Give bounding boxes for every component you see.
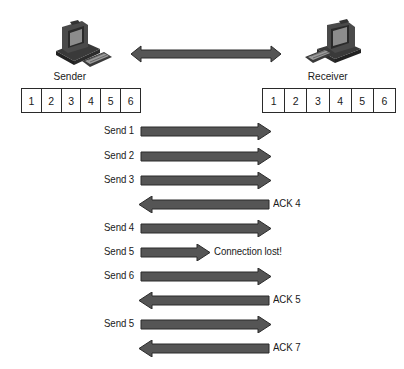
sender-label: Sender: [53, 70, 86, 82]
sender-buffer: 1 2 3 4 5 6: [21, 88, 141, 113]
exchange-label: Send 6: [104, 269, 134, 281]
sender-computer-icon: [52, 19, 114, 69]
exchange-label: Send 2: [104, 149, 134, 161]
left-arrow-icon: [138, 340, 270, 357]
right-arrow-icon: [140, 148, 272, 165]
connection-lost-note: Connection lost!: [214, 245, 282, 257]
sender-buffer-cell: 4: [81, 89, 101, 112]
exchange-label: ACK 4: [273, 197, 300, 209]
sender-buffer-cell: 6: [121, 89, 140, 112]
receiver-buffer-cell: 3: [307, 89, 329, 112]
left-arrow-icon: [138, 196, 270, 213]
receiver-buffer-cell: 5: [352, 89, 374, 112]
exchange-label: Send 4: [104, 221, 134, 233]
sender-buffer-cell: 1: [22, 89, 42, 112]
short-right-arrow-icon: [140, 244, 211, 261]
right-arrow-icon: [140, 220, 272, 237]
right-arrow-icon: [140, 172, 272, 189]
right-arrow-icon: [140, 316, 272, 333]
sender-buffer-cell: 3: [62, 89, 82, 112]
receiver-buffer-cell: 1: [263, 89, 285, 112]
exchange-label: ACK 7: [273, 341, 300, 353]
bidirectional-link-arrow-icon: [130, 45, 282, 63]
exchange-label: ACK 5: [273, 293, 300, 305]
receiver-buffer-cell: 4: [330, 89, 352, 112]
sender-buffer-cell: 5: [101, 89, 121, 112]
right-arrow-icon: [140, 268, 272, 285]
receiver-buffer-cell: 6: [374, 89, 395, 112]
exchange-label: Send 1: [104, 124, 134, 136]
receiver-label: Receiver: [308, 70, 348, 82]
receiver-buffer: 1 2 3 4 5 6: [262, 88, 396, 113]
receiver-computer-icon: [303, 19, 365, 69]
exchange-label: Send 5: [104, 245, 134, 257]
left-arrow-icon: [138, 292, 270, 309]
receiver-buffer-cell: 2: [285, 89, 307, 112]
right-arrow-icon: [140, 123, 272, 140]
exchange-label: Send 5: [104, 317, 134, 329]
sender-buffer-cell: 2: [42, 89, 62, 112]
exchange-label: Send 3: [104, 173, 134, 185]
